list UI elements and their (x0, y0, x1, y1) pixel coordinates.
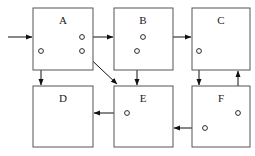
port-marker-b-upper-mid[interactable] (141, 35, 146, 40)
port-marker-a-upper-right[interactable] (80, 35, 85, 40)
port-marker-f-upper-right[interactable] (236, 111, 241, 116)
port-marker-f-lower-left[interactable] (203, 126, 208, 131)
block-boxes: ABCDEF (33, 8, 250, 147)
port-marker-a-lower-left[interactable] (39, 49, 44, 54)
port-marker-c-lower-left[interactable] (197, 49, 202, 54)
block-box-a-label: A (59, 14, 67, 26)
block-box-d-label: D (59, 92, 67, 104)
block-box-f-label: F (218, 92, 224, 104)
block-box-e-label: E (140, 92, 147, 104)
block-box-b-label: B (139, 14, 146, 26)
port-marker-e-upper-left[interactable] (125, 111, 130, 116)
block-box-e[interactable]: E (114, 86, 173, 147)
block-box-c-label: C (217, 14, 224, 26)
block-diagram-canvas: ABCDEF (0, 0, 255, 156)
block-box-d[interactable]: D (33, 86, 93, 147)
port-marker-a-lower-right[interactable] (80, 49, 85, 54)
block-box-f[interactable]: F (192, 86, 250, 147)
block-box-c[interactable]: C (192, 8, 250, 70)
port-marker-b-lower-mid[interactable] (135, 49, 140, 54)
diagram-svg: ABCDEF (0, 0, 255, 156)
